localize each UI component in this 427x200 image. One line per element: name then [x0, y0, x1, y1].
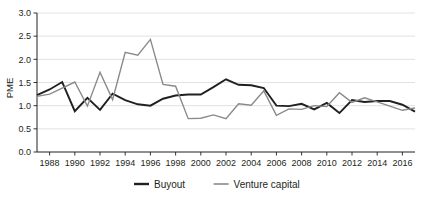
x-tick-labels-group: 1988199019921994199619982000200220042006…	[40, 158, 413, 168]
y-tick-labels-group: 0.00.51.01.52.02.53.0	[18, 8, 31, 157]
y-tick-label: 1.0	[18, 101, 31, 111]
series-line-buyout	[37, 79, 415, 113]
x-tick-label: 1992	[90, 158, 110, 168]
x-tick-label: 2010	[317, 158, 337, 168]
x-tick-label: 2004	[241, 158, 261, 168]
x-tick-label: 1998	[166, 158, 186, 168]
x-tick-label: 2000	[191, 158, 211, 168]
y-tick-label: 0.5	[18, 124, 31, 134]
x-tick-label: 2008	[292, 158, 312, 168]
x-tick-label: 2006	[266, 158, 286, 168]
x-tick-label: 1994	[115, 158, 135, 168]
y-tick-label: 2.5	[18, 31, 31, 41]
gridlines-group	[37, 13, 415, 129]
legend-label: Venture capital	[234, 179, 300, 190]
x-tick-marks-group	[50, 152, 403, 156]
legend-label: Buyout	[154, 179, 185, 190]
y-axis-title: PME	[4, 78, 15, 99]
y-tick-label: 1.5	[18, 78, 31, 88]
y-tick-marks-group	[34, 13, 38, 152]
chart-container: 0.00.51.01.52.02.53.0 198819901992199419…	[0, 0, 427, 200]
x-tick-label: 2002	[216, 158, 236, 168]
x-tick-label: 2016	[392, 158, 412, 168]
data-series-group	[37, 39, 415, 118]
pme-line-chart: 0.00.51.01.52.02.53.0 198819901992199419…	[0, 0, 427, 200]
x-tick-label: 2014	[367, 158, 387, 168]
x-tick-label: 1990	[65, 158, 85, 168]
x-tick-label: 2012	[342, 158, 362, 168]
x-tick-label: 1996	[140, 158, 160, 168]
y-tick-label: 0.0	[18, 147, 31, 157]
chart-legend: BuyoutVenture capital	[134, 179, 300, 190]
y-tick-label: 3.0	[18, 8, 31, 18]
x-tick-label: 1988	[40, 158, 60, 168]
y-tick-label: 2.0	[18, 55, 31, 65]
